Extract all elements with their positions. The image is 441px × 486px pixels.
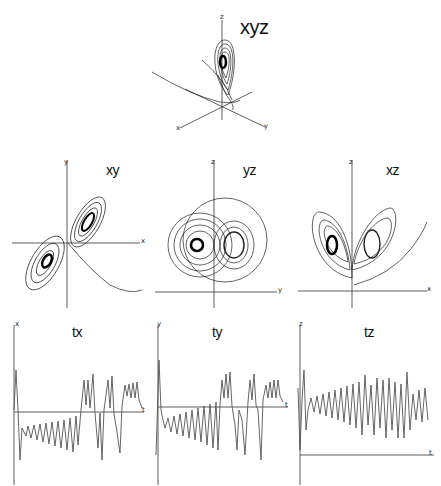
z-axis-label: z (349, 158, 353, 166)
x-axis-label: x (176, 124, 180, 132)
y-axis-label: y (64, 158, 68, 166)
t-axis-label: t (142, 406, 145, 414)
panel-title-tz: tz (364, 324, 374, 340)
xy-plot (0, 140, 150, 310)
y-axis-label: y (264, 122, 268, 130)
panel-xyz: z x y xyz (140, 0, 310, 140)
z-axis-label: z (299, 320, 303, 328)
panel-xy: y x xy (0, 140, 150, 310)
ty-plot (150, 310, 295, 486)
panel-xz: z x xz (290, 140, 441, 310)
panel-title-xz: xz (386, 162, 399, 178)
z-axis-label: z (220, 13, 224, 21)
z-axis-label: z (211, 158, 215, 166)
panel-title-xy: xy (106, 162, 119, 178)
panel-yz: z y yz (145, 140, 295, 310)
panel-ty: y t ty (150, 310, 295, 486)
xyz-plot (140, 0, 310, 140)
xz-plot (290, 140, 441, 310)
panel-tx: x t tx (0, 310, 150, 486)
t-axis-label: t (285, 401, 288, 409)
panel-title-ty: ty (212, 324, 222, 340)
x-axis-label: x (427, 285, 431, 293)
t-axis-label: t (429, 449, 432, 457)
yz-plot (145, 140, 295, 310)
panel-tz: z t tz (290, 310, 441, 486)
y-axis-label: y (278, 286, 282, 294)
panel-title-yz: yz (243, 162, 256, 178)
panel-title-xyz: xyz (240, 16, 269, 39)
y-axis-label: y (157, 320, 161, 328)
panel-title-tx: tx (72, 324, 82, 340)
x-axis-label: x (15, 320, 19, 328)
